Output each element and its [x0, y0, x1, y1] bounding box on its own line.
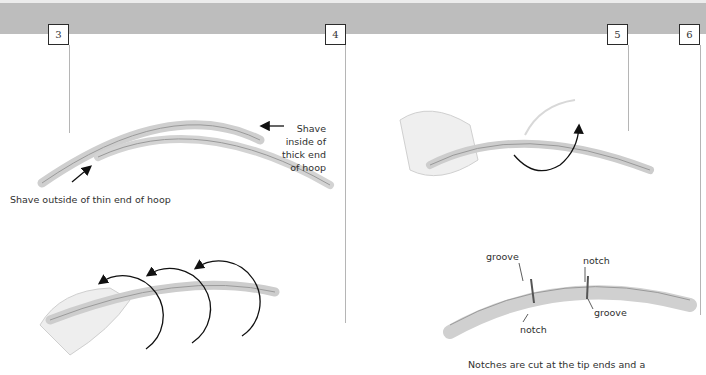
label-groove-right: groove — [594, 306, 627, 319]
callout-line: of hoop — [280, 161, 326, 174]
callout-line: Shave — [280, 122, 326, 135]
callout-shave-thin-end: Shave outside of thin end of hoop — [10, 193, 171, 206]
wrapping-illustration-three-arrows — [40, 261, 275, 355]
callout-shave-thick-end: Shave inside of thick end of hoop — [280, 122, 326, 174]
callout-line: inside of — [280, 135, 326, 148]
label-groove-left: groove — [486, 250, 519, 263]
label-notch-bottom: notch — [520, 323, 547, 336]
label-notch-top: notch — [583, 254, 610, 267]
callout-line: thick end — [280, 148, 326, 161]
wrapping-illustration-one-arrow — [400, 100, 650, 176]
notch-groove-illustration — [450, 263, 690, 332]
caption-notches: Notches are cut at the tip ends and a — [468, 358, 645, 371]
arrow-thin-end — [72, 167, 90, 182]
